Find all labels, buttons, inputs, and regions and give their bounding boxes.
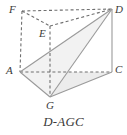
edge-f-a — [20, 11, 22, 72]
vertex-label-f: F — [9, 4, 16, 15]
geometry-figure-container: FEDAGC D-AGC — [0, 0, 127, 135]
vertex-label-e: E — [39, 28, 46, 39]
vertex-label-g: G — [46, 100, 54, 111]
vertex-label-d: D — [115, 4, 123, 15]
edge-f-e — [22, 11, 50, 26]
figure-caption: D-AGC — [0, 114, 127, 129]
edge-f-d — [22, 9, 112, 11]
vertex-label-c: C — [115, 64, 122, 75]
vertex-label-a: A — [6, 65, 13, 76]
